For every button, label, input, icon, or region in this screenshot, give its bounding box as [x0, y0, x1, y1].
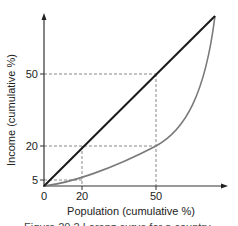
x-tick-0: 0 [41, 190, 47, 202]
x-axis-label: Population (cumulative %) [67, 205, 195, 217]
y-tick-20: 20 [26, 140, 38, 152]
y-tick-5: 5 [32, 174, 38, 186]
y-axis-arrow-icon [42, 13, 47, 20]
x-tick-20: 20 [76, 190, 88, 202]
axes [43, 18, 223, 187]
equality-line [44, 16, 215, 186]
lorenz-chart: 50 20 5 0 20 50 Population (cumulative %… [0, 0, 238, 226]
figure-caption: Figure 20.2 Lorenz curve for a country [24, 221, 211, 226]
y-tick-50: 50 [26, 68, 38, 80]
x-tick-50: 50 [150, 190, 162, 202]
x-axis-arrow-icon [221, 184, 228, 189]
y-axis-label: Income (cumulative %) [5, 54, 17, 166]
